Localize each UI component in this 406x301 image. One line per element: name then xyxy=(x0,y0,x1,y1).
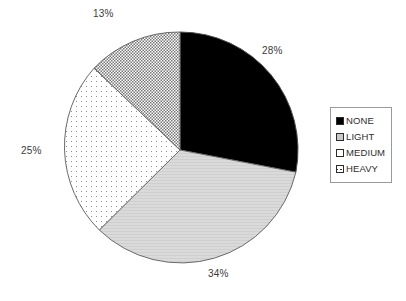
slice-label-none: 28% xyxy=(262,45,283,56)
legend-label-light: LIGHT xyxy=(346,132,374,142)
empty-fill-swatch-icon xyxy=(336,149,344,157)
legend-item-heavy[interactable]: HEAVY xyxy=(336,161,387,177)
chart-legend: NONE LIGHT MEDIUM HEAVY xyxy=(330,107,392,183)
solid-black-swatch-icon xyxy=(336,117,344,125)
crosshatch-swatch-icon xyxy=(336,165,344,173)
slice-label-medium: 25% xyxy=(21,145,42,156)
slice-label-heavy: 13% xyxy=(93,8,114,19)
legend-label-none: NONE xyxy=(346,116,374,126)
legend-label-medium: MEDIUM xyxy=(346,148,385,158)
legend-item-none[interactable]: NONE xyxy=(336,113,387,129)
legend-label-heavy: HEAVY xyxy=(346,164,378,174)
gray-fill-swatch-icon xyxy=(336,133,344,141)
slice-label-light: 34% xyxy=(208,268,229,279)
pie-chart: 28% 34% 25% 13% NONE LIGHT MEDIUM HEAVY xyxy=(0,0,406,301)
legend-item-light[interactable]: LIGHT xyxy=(336,129,387,145)
legend-item-medium[interactable]: MEDIUM xyxy=(336,145,387,161)
